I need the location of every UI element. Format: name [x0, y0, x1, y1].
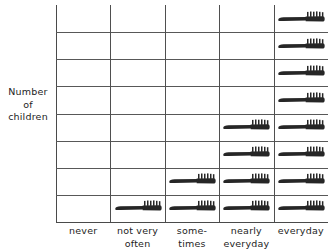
x-tick-label: not veryoften — [110, 225, 164, 250]
x-tick-label-line: never — [56, 225, 110, 238]
pictograph-chart: Number of children nevernot veryoftensom… — [0, 0, 331, 252]
toothbrush-icon — [274, 59, 328, 86]
y-axis-title-line-3: children — [2, 111, 54, 124]
toothbrush-icon — [219, 168, 273, 195]
toothbrush-icon — [219, 195, 273, 222]
x-axis-labels: nevernot veryoftensome-timesnearlyeveryd… — [56, 225, 328, 252]
y-axis-title-line-2: of — [2, 99, 54, 112]
x-tick-label-line: times — [165, 238, 219, 251]
x-tick-label-line: often — [110, 238, 164, 251]
toothbrush-icon — [219, 141, 273, 168]
toothbrush-icon — [274, 168, 328, 195]
x-tick-label-line: some- — [165, 225, 219, 238]
x-tick-label-line: everyday — [219, 238, 273, 251]
x-tick-label: some-times — [165, 225, 219, 250]
pictogram-icon-layer — [56, 5, 328, 222]
x-tick-label: everyday — [274, 225, 328, 238]
x-tick-label: nearlyeveryday — [219, 225, 273, 250]
plot-area — [56, 5, 328, 222]
x-tick-label-line: not very — [110, 225, 164, 238]
x-tick-label-line: everyday — [274, 225, 328, 238]
toothbrush-icon — [165, 195, 219, 222]
y-axis-title: Number of children — [2, 86, 54, 124]
toothbrush-icon — [219, 114, 273, 141]
x-tick-label-line: nearly — [219, 225, 273, 238]
toothbrush-icon — [165, 168, 219, 195]
x-tick-label: never — [56, 225, 110, 238]
toothbrush-icon — [110, 195, 164, 222]
toothbrush-icon — [274, 86, 328, 113]
y-axis-title-line-1: Number — [2, 86, 54, 99]
toothbrush-icon — [274, 141, 328, 168]
toothbrush-icon — [274, 5, 328, 32]
x-axis-line — [56, 222, 328, 223]
toothbrush-icon — [274, 114, 328, 141]
toothbrush-icon — [274, 32, 328, 59]
toothbrush-icon — [274, 195, 328, 222]
